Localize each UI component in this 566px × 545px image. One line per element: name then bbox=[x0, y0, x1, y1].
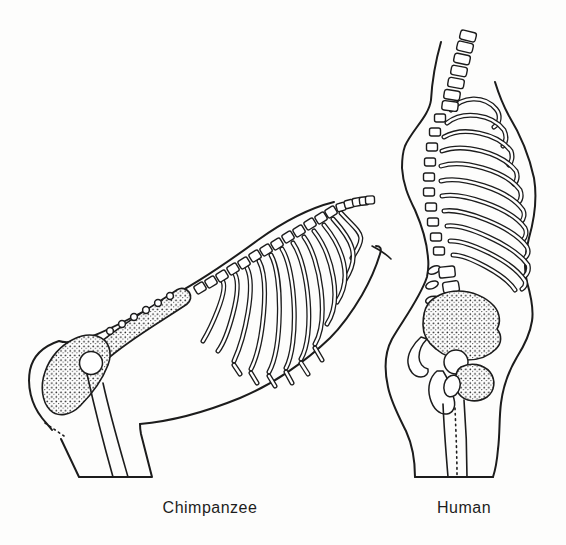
chimp-femur-head bbox=[80, 352, 103, 375]
chimp-neck-underline bbox=[372, 246, 391, 259]
chimp-iliac-blade bbox=[100, 297, 182, 354]
human-thoracic-spine bbox=[424, 114, 446, 255]
chimp-cervical-vertebrae bbox=[336, 196, 375, 212]
human-ischium bbox=[455, 364, 494, 401]
human-figure bbox=[386, 30, 536, 477]
human-label: Human bbox=[437, 499, 491, 516]
figure-canvas: Chimpanzee Human bbox=[0, 0, 566, 545]
human-coccyx bbox=[408, 337, 428, 377]
human-ilium bbox=[423, 291, 501, 360]
illustration-page: Chimpanzee Human bbox=[0, 0, 566, 545]
chimp-costal-cartilages bbox=[234, 348, 322, 386]
human-back-outline bbox=[386, 42, 441, 477]
chimp-ischium bbox=[42, 335, 110, 415]
chimpanzee-figure bbox=[29, 196, 391, 477]
chimpanzee-label: Chimpanzee bbox=[163, 499, 258, 516]
